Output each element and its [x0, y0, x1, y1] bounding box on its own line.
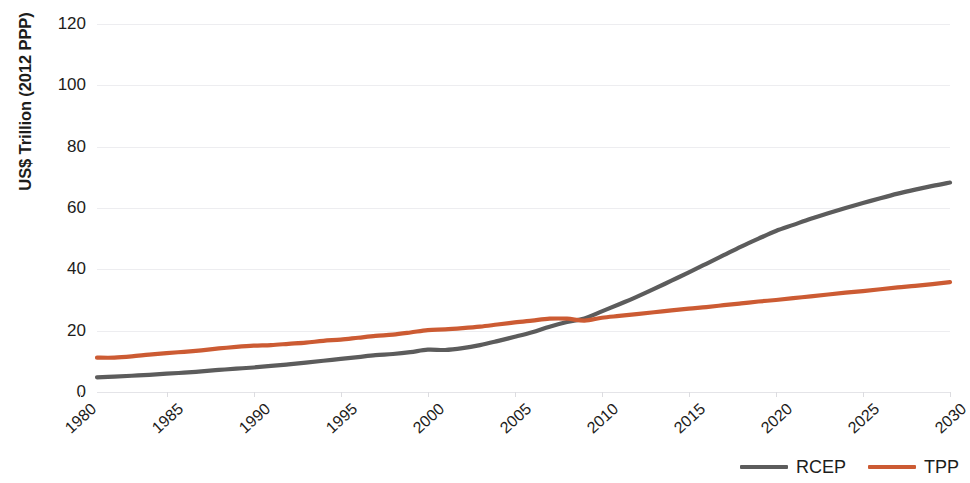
x-tick-label: 2025: [832, 400, 883, 448]
legend-item-tpp[interactable]: TPP: [868, 458, 959, 476]
legend-item-rcep[interactable]: RCEP: [740, 458, 846, 476]
x-tick-label: 2015: [658, 400, 709, 448]
chart-legend: RCEPTPP: [740, 458, 959, 476]
legend-line-icon: [740, 465, 788, 469]
x-tick-mark: [602, 392, 603, 397]
y-tick-label: 20: [30, 322, 86, 339]
y-tick-label: 120: [30, 15, 86, 32]
x-axis-line: [97, 392, 950, 393]
y-tick-label: 80: [30, 138, 86, 155]
x-tick-label: 1985: [136, 400, 187, 448]
x-tick-mark: [80, 392, 81, 397]
x-tick-mark: [950, 392, 951, 397]
x-tick-label: 2020: [745, 400, 796, 448]
x-tick-mark: [863, 392, 864, 397]
legend-label: TPP: [924, 458, 959, 476]
y-tick-label: 60: [30, 199, 86, 216]
x-tick-mark: [689, 392, 690, 397]
plot-area: [97, 24, 950, 392]
series-lines: [97, 24, 950, 392]
x-tick-mark: [254, 392, 255, 397]
x-tick-mark: [167, 392, 168, 397]
legend-label: RCEP: [796, 458, 846, 476]
x-tick-mark: [428, 392, 429, 397]
y-tick-label: 40: [30, 260, 86, 277]
x-tick-label: 1990: [223, 400, 274, 448]
x-tick-label: 2030: [919, 400, 970, 448]
series-line-tpp: [97, 282, 950, 358]
x-tick-label: 2000: [397, 400, 448, 448]
x-tick-label: 2005: [484, 400, 535, 448]
y-tick-label: 0: [30, 383, 86, 400]
x-tick-label: 1995: [310, 400, 361, 448]
x-tick-mark: [515, 392, 516, 397]
legend-line-icon: [868, 465, 916, 469]
x-tick-mark: [776, 392, 777, 397]
x-tick-label: 2010: [571, 400, 622, 448]
y-tick-label: 100: [30, 76, 86, 93]
x-tick-mark: [341, 392, 342, 397]
